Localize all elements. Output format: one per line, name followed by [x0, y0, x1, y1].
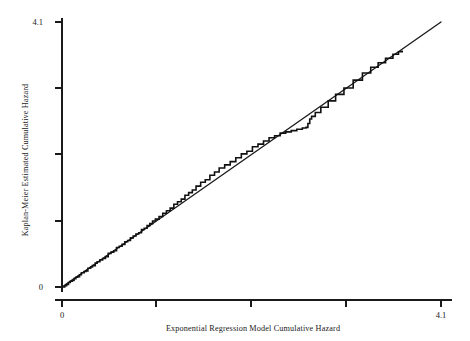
x-tick-label-min: 0	[60, 310, 64, 320]
y-axis-title: Kaplan-Meier Estimated Cumulative Hazard	[21, 84, 30, 237]
qq-plot-figure: 4.1 0 0 4.1 Exponential Regression Model…	[0, 0, 470, 341]
y-tick-label-max: 4.1	[32, 17, 43, 27]
x-axis-title: Exponential Regression Model Cumulative …	[166, 324, 340, 333]
x-tick-label-max: 4.1	[436, 310, 447, 320]
y-axis-ticks	[55, 22, 62, 287]
y-tick-label-min: 0	[39, 282, 43, 292]
x-axis-ticks	[62, 300, 441, 307]
chart-canvas: 4.1 0 0 4.1 Exponential Regression Model…	[0, 0, 470, 341]
